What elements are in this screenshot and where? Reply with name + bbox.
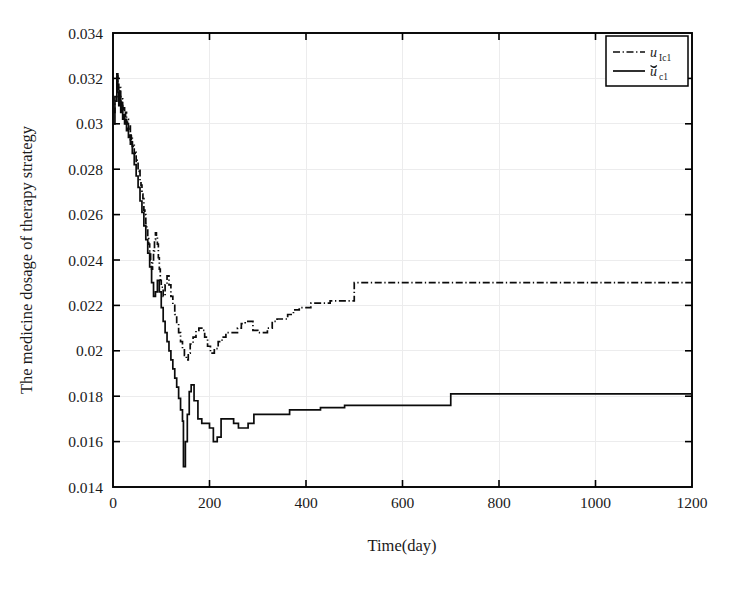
figure-container: 020040060080010001200 0.0140.0160.0180.0… [0,0,730,590]
y-tick-label: 0.032 [68,70,103,87]
y-tick-label: 0.026 [68,206,103,223]
y-axis-title: The medicine dosage of therapy strategy [17,125,36,394]
x-tick-label: 0 [109,494,117,511]
x-tick-label: 800 [487,494,511,511]
y-tick-label: 0.022 [68,297,103,314]
x-tick-label: 1000 [580,494,611,511]
x-tick-labels-group: 020040060080010001200 [109,494,708,511]
y-tick-label: 0.014 [68,479,103,496]
y-tick-label: 0.018 [68,388,103,405]
legend-label-u-c1-sub: c1 [659,72,668,82]
y-tick-labels-group: 0.0140.0160.0180.020.0220.0240.0260.0280… [68,25,103,496]
y-tick-label: 0.03 [76,115,103,132]
x-tick-label: 600 [391,494,415,511]
y-tick-label: 0.02 [76,342,103,359]
y-tick-label: 0.016 [68,433,103,450]
legend-label-u-ic1-base: u [650,45,657,60]
x-tick-label: 200 [198,494,222,511]
legend[interactable]: u Ic1 ŭ c1 [606,36,688,86]
legend-box [606,36,688,86]
x-tick-label: 1200 [677,494,708,511]
y-tick-label: 0.024 [68,252,103,269]
x-axis-title: Time(day) [367,536,436,555]
chart-canvas: 020040060080010001200 0.0140.0160.0180.0… [0,0,730,590]
x-tick-label: 400 [294,494,318,511]
y-tick-label: 0.034 [68,25,103,42]
y-tick-label: 0.028 [68,161,103,178]
legend-label-u-ic1-sub: Ic1 [659,53,671,63]
